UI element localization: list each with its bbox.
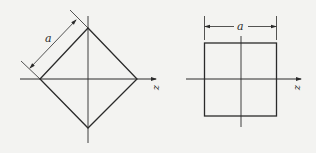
left-diamond-square <box>40 28 137 128</box>
right-dimension-label: a <box>237 20 244 33</box>
left-dimension-label: a <box>45 32 52 45</box>
left-dimension-line <box>53 20 76 44</box>
left-extension-line-top <box>70 10 88 28</box>
left-extension-line-left <box>21 61 40 79</box>
left-panel: a z <box>20 10 163 143</box>
right-panel: a z <box>186 16 304 127</box>
left-dimension-line-lower <box>30 44 53 68</box>
diagram-canvas: a z a z <box>0 0 316 153</box>
left-z-axis-label: z <box>152 84 163 91</box>
right-z-axis-label: z <box>293 84 304 91</box>
